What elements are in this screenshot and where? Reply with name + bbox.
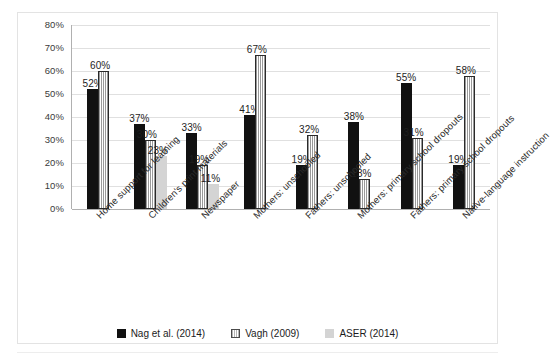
- bar-vagh: 67%: [255, 55, 266, 209]
- legend-swatch-vagh-icon: [231, 329, 240, 338]
- bar-value-label: 31%: [404, 127, 424, 138]
- bar-value-label: 58%: [456, 65, 476, 76]
- bar-value-label: 67%: [247, 44, 267, 55]
- y-tick-label-10: 10%: [20, 181, 64, 191]
- bar-group: 52%60%: [72, 25, 124, 209]
- legend-separator: [17, 352, 498, 353]
- y-tick-label-70: 70%: [20, 43, 64, 53]
- chart-legend: Nag et al. (2014) Vagh (2009) ASER (2014…: [17, 328, 498, 339]
- legend-label-vagh: Vagh (2009): [245, 328, 299, 339]
- legend-swatch-nag-icon: [117, 329, 126, 338]
- legend-item-vagh: Vagh (2009): [231, 328, 299, 339]
- bar-nag: 52%: [87, 89, 98, 209]
- bar-value-label: 11%: [201, 173, 220, 184]
- bar-value-label: 55%: [396, 72, 416, 83]
- y-tick-label-40: 40%: [20, 112, 64, 122]
- y-tick-label-80: 80%: [20, 20, 64, 30]
- legend-label-nag: Nag et al. (2014): [131, 328, 206, 339]
- bar-vagh: 60%: [98, 71, 109, 209]
- legend-label-aser: ASER (2014): [339, 328, 398, 339]
- y-tick-label-20: 20%: [20, 158, 64, 168]
- bar-nag: 55%: [401, 83, 412, 210]
- y-tick-label-0: 0%: [20, 204, 64, 214]
- y-tick-label-30: 30%: [20, 135, 64, 145]
- y-tick-label-50: 50%: [20, 89, 64, 99]
- y-tick-label-60: 60%: [20, 66, 64, 76]
- bar-value-label: 32%: [299, 124, 319, 135]
- bar-value-label: 38%: [344, 111, 364, 122]
- legend-swatch-aser-icon: [325, 329, 334, 338]
- legend-item-nag: Nag et al. (2014): [117, 328, 206, 339]
- bar-value-label: 60%: [90, 60, 110, 71]
- bar-nag: 41%: [244, 115, 255, 209]
- legend-item-aser: ASER (2014): [325, 328, 398, 339]
- bar-vagh: 58%: [464, 76, 475, 209]
- bar-value-label: 33%: [182, 122, 202, 133]
- bar-value-label: 30%: [137, 129, 157, 140]
- bar-value-label: 37%: [129, 113, 149, 124]
